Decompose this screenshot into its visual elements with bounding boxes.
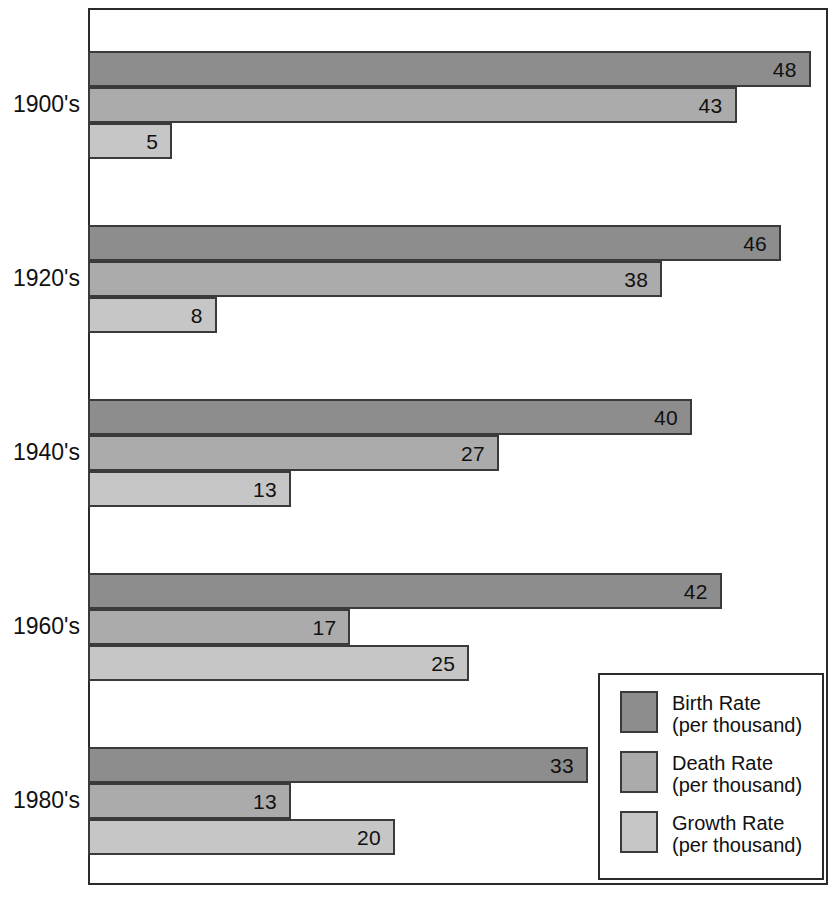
bar-value-label: 13 xyxy=(253,479,289,500)
bar-value-label: 46 xyxy=(743,233,779,254)
legend-item-0: Birth Rate(per thousand) xyxy=(620,691,822,737)
bar-group: 46388 xyxy=(88,225,828,333)
bar: 20 xyxy=(88,819,395,855)
bar-value-label: 42 xyxy=(684,581,720,602)
legend-series-name: Birth Rate xyxy=(672,692,802,714)
legend-text: Death Rate(per thousand) xyxy=(672,751,802,797)
legend-series-name: Growth Rate xyxy=(672,812,802,834)
bar-value-label: 20 xyxy=(357,827,393,848)
legend-item-1: Death Rate(per thousand) xyxy=(620,751,822,797)
bar-value-label: 25 xyxy=(431,653,467,674)
bar-group: 421725 xyxy=(88,573,828,681)
bar-value-label: 48 xyxy=(773,59,809,80)
category-label-4: 1980's xyxy=(0,789,80,812)
bar: 43 xyxy=(88,87,737,123)
chart-legend: Birth Rate(per thousand)Death Rate(per t… xyxy=(598,673,824,880)
bar-value-label: 38 xyxy=(624,269,660,290)
legend-series-unit: (per thousand) xyxy=(672,834,802,856)
bar-value-label: 33 xyxy=(550,755,586,776)
bar-value-label: 17 xyxy=(312,617,348,638)
bar: 13 xyxy=(88,471,291,507)
bar-value-label: 5 xyxy=(146,131,170,152)
bar: 42 xyxy=(88,573,722,609)
legend-swatch-icon xyxy=(620,691,658,733)
bar: 38 xyxy=(88,261,662,297)
category-label-2: 1940's xyxy=(0,441,80,464)
bar: 5 xyxy=(88,123,172,159)
bar: 13 xyxy=(88,783,291,819)
legend-swatch-icon xyxy=(620,751,658,793)
bar-value-label: 43 xyxy=(699,95,735,116)
legend-text: Birth Rate(per thousand) xyxy=(672,691,802,737)
bar: 46 xyxy=(88,225,781,261)
legend-series-name: Death Rate xyxy=(672,752,802,774)
bar-value-label: 40 xyxy=(654,407,690,428)
bar: 25 xyxy=(88,645,469,681)
bar-group: 48435 xyxy=(88,51,828,159)
legend-series-unit: (per thousand) xyxy=(672,774,802,796)
bar-group: 402713 xyxy=(88,399,828,507)
category-label-1: 1920's xyxy=(0,267,80,290)
category-label-3: 1960's xyxy=(0,615,80,638)
bar: 48 xyxy=(88,51,811,87)
legend-swatch-icon xyxy=(620,811,658,853)
bar: 8 xyxy=(88,297,217,333)
bar-value-label: 13 xyxy=(253,791,289,812)
bar-value-label: 8 xyxy=(191,305,215,326)
bar: 17 xyxy=(88,609,350,645)
legend-item-2: Growth Rate(per thousand) xyxy=(620,811,822,857)
category-label-0: 1900's xyxy=(0,93,80,116)
bar: 40 xyxy=(88,399,692,435)
bar: 27 xyxy=(88,435,499,471)
bar-value-label: 27 xyxy=(461,443,497,464)
bar: 33 xyxy=(88,747,588,783)
legend-text: Growth Rate(per thousand) xyxy=(672,811,802,857)
legend-series-unit: (per thousand) xyxy=(672,714,802,736)
